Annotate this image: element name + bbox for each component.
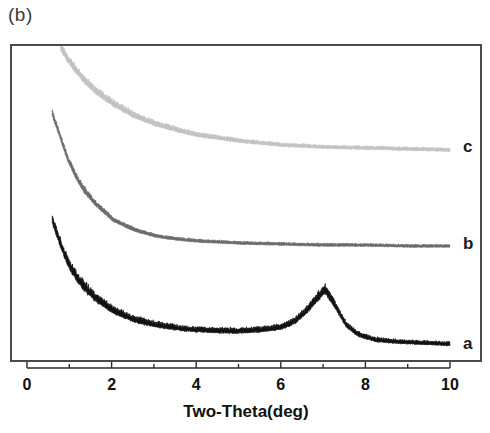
x-axis-ticks [10, 362, 482, 382]
x-tick-label-8: 8 [361, 376, 370, 394]
curve-b [52, 110, 450, 248]
curve-a [52, 216, 450, 346]
x-axis-title: Two-Theta(deg) [10, 402, 482, 422]
x-tick-label-0: 0 [23, 376, 32, 394]
x-tick-label-6: 6 [276, 376, 285, 394]
x-axis-area: 0246810 Two-Theta(deg) [10, 362, 482, 433]
xrd-figure: (b) 0246810 Two-Theta(deg) abc [0, 0, 490, 433]
series-label-c: c [463, 137, 472, 157]
series-label-a: a [463, 334, 472, 354]
x-tick-label-4: 4 [192, 376, 201, 394]
x-tick-label-10: 10 [441, 376, 459, 394]
curve-c [61, 46, 450, 152]
series-label-b: b [463, 234, 473, 254]
panel-label: (b) [8, 4, 33, 26]
x-tick-label-2: 2 [107, 376, 116, 394]
plot-frame [10, 44, 482, 362]
curve-canvas [12, 46, 484, 364]
